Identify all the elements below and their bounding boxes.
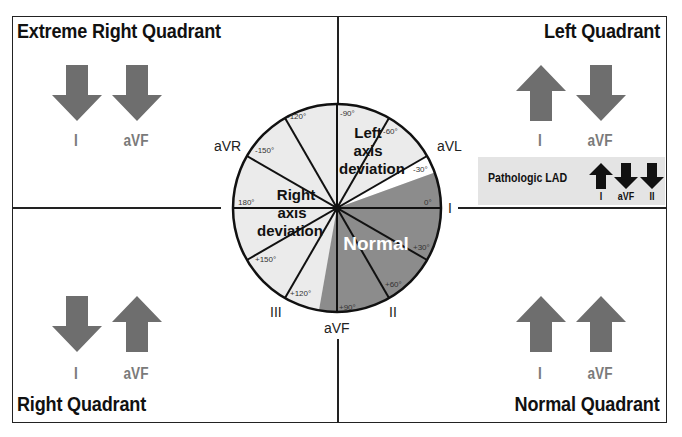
tick-plus-150: +150°: [255, 255, 276, 264]
lead-III: III: [270, 304, 282, 320]
tick-plus-30: +30°: [413, 243, 430, 252]
tick-plus-120: +120°: [290, 289, 311, 298]
region-label-left-axis-3: deviation: [339, 160, 405, 177]
lead-aVR: aVR: [214, 138, 241, 154]
region-label-left-axis-1: Left: [354, 124, 382, 141]
tick-plus-90: +90°: [339, 303, 356, 312]
region-label-left-axis-2: axis: [353, 142, 382, 159]
lead-II: II: [389, 304, 397, 320]
tick-plus-60: +60°: [385, 280, 402, 289]
axis-wheel: Left axis deviation Right axis deviation…: [0, 0, 682, 437]
tick-0: 0°: [424, 198, 432, 207]
tick-180: 180°: [238, 198, 255, 207]
lead-I: I: [448, 200, 452, 216]
region-label-right-axis-2: axis: [277, 204, 306, 221]
lead-aVF: aVF: [324, 320, 350, 336]
lead-aVL: aVL: [437, 138, 462, 154]
region-label-right-axis-3: deviation: [257, 222, 323, 239]
tick-minus-30: -30°: [413, 165, 428, 174]
tick-minus-120: -120°: [287, 112, 306, 121]
region-label-normal: Normal: [343, 233, 408, 254]
region-label-right-axis-1: Right: [277, 186, 315, 203]
tick-minus-150: -150°: [255, 146, 274, 155]
tick-minus-60: -60°: [383, 127, 398, 136]
tick-minus-90: -90°: [340, 109, 355, 118]
